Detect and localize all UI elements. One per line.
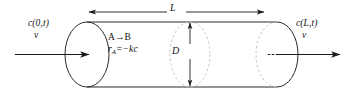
inlet-concentration-label: c(0,t) [28, 19, 49, 29]
outlet-concentration-label: c(L,t) [296, 19, 317, 29]
length-dimension-label: L [170, 3, 176, 14]
diameter-dimension-label: D [172, 46, 179, 57]
rate-law-label: rA=−kc [108, 45, 138, 55]
outlet-velocity-label: v [302, 31, 306, 41]
inlet-velocity-label: v [34, 31, 38, 41]
reaction-equation-label: A→B [108, 33, 131, 43]
tubular-reactor-diagram: c(0,t) v c(L,t) v A→B rA=−kc L D [0, 0, 354, 100]
rate-law-expression: =−kc [116, 44, 138, 54]
